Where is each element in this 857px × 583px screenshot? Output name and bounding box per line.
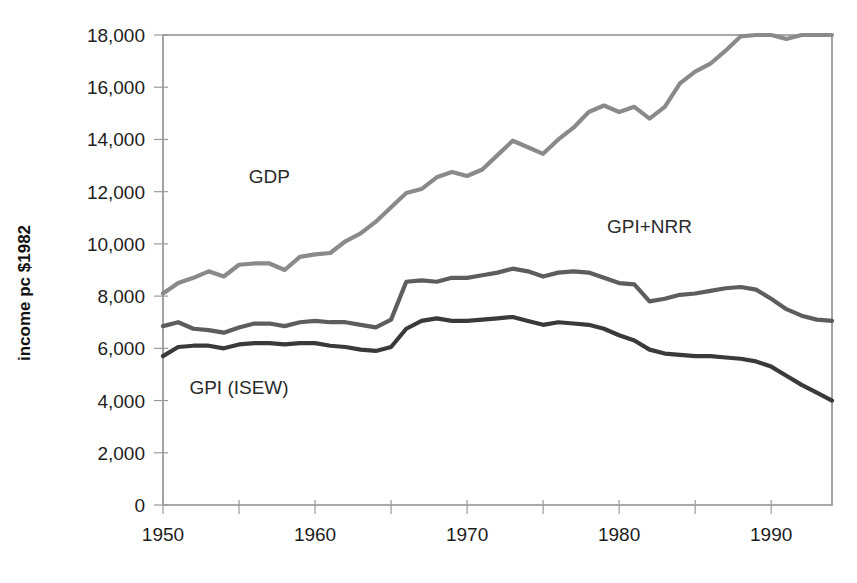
x-tick-label: 1950 bbox=[142, 524, 184, 545]
series-line-gpi-nrr bbox=[163, 269, 832, 333]
y-tick-label: 4,000 bbox=[97, 391, 145, 412]
series-label-gpi-isew: GPI (ISEW) bbox=[189, 377, 288, 398]
x-axis-tick-labels: 19501960197019801990 bbox=[142, 524, 792, 545]
y-tick-label: 18,000 bbox=[87, 25, 145, 46]
y-axis-ticks bbox=[154, 35, 168, 505]
x-axis-ticks bbox=[163, 500, 771, 514]
x-tick-label: 1970 bbox=[446, 524, 488, 545]
y-tick-label: 12,000 bbox=[87, 182, 145, 203]
x-tick-label: 1980 bbox=[598, 524, 640, 545]
series-label-gdp: GDP bbox=[249, 166, 290, 187]
y-tick-label: 2,000 bbox=[97, 443, 145, 464]
y-tick-label: 16,000 bbox=[87, 77, 145, 98]
y-axis-title: income pc $1982 bbox=[15, 225, 34, 361]
data-series-group bbox=[163, 35, 832, 401]
y-tick-label: 6,000 bbox=[97, 338, 145, 359]
y-axis-tick-labels: 02,0004,0006,0008,00010,00012,00014,0001… bbox=[87, 25, 145, 516]
y-tick-label: 0 bbox=[134, 495, 145, 516]
series-line-gdp bbox=[163, 35, 832, 294]
y-tick-label: 10,000 bbox=[87, 234, 145, 255]
x-tick-label: 1960 bbox=[294, 524, 336, 545]
y-tick-label: 8,000 bbox=[97, 286, 145, 307]
plot-area-border bbox=[163, 35, 832, 505]
y-tick-label: 14,000 bbox=[87, 129, 145, 150]
x-tick-label: 1990 bbox=[750, 524, 792, 545]
chart-container: 02,0004,0006,0008,00010,00012,00014,0001… bbox=[0, 0, 857, 583]
plot-frame bbox=[163, 35, 832, 505]
series-label-gpi-nrr: GPI+NRR bbox=[607, 216, 692, 237]
line-chart: 02,0004,0006,0008,00010,00012,00014,0001… bbox=[0, 0, 857, 583]
